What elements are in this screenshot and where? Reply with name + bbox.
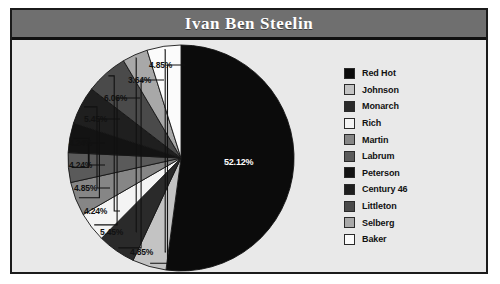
legend-item[interactable]: Martin xyxy=(344,131,474,148)
legend-item[interactable]: Johnson xyxy=(344,82,474,99)
legend-item[interactable]: Peterson xyxy=(344,165,474,182)
legend-item-label: Monarch xyxy=(362,101,399,111)
pie-slice-label: 5.45% xyxy=(100,227,123,237)
legend-item-label: Littleton xyxy=(362,201,397,211)
legend-item[interactable]: Baker xyxy=(344,231,474,248)
legend-swatch-icon xyxy=(344,118,355,129)
legend-item-label: Rich xyxy=(362,118,381,128)
chart-legend: Red HotJohnsonMonarchRichMartinLabrumPet… xyxy=(344,65,474,248)
chart-frame: Ivan Ben Steelin 4.85%3.64%6.06%5.45%4.2… xyxy=(10,8,488,274)
legend-item[interactable]: Labrum xyxy=(344,148,474,165)
legend-swatch-icon xyxy=(344,201,355,212)
pie-slices xyxy=(68,45,294,271)
legend-item-label: Century 46 xyxy=(362,184,408,194)
legend-item[interactable]: Monarch xyxy=(344,98,474,115)
page-title: Ivan Ben Steelin xyxy=(185,14,314,34)
pie-slice-label: 6.06% xyxy=(104,93,127,103)
pie-slice-label: 4.85% xyxy=(74,183,97,193)
legend-swatch-icon xyxy=(344,184,355,195)
legend-swatch-icon xyxy=(344,84,355,95)
legend-item-label: Labrum xyxy=(362,151,394,161)
pie-svg xyxy=(16,43,336,274)
legend-item[interactable]: Selberg xyxy=(344,214,474,231)
legend-swatch-icon xyxy=(344,167,355,178)
pie-slice-label: 4.24% xyxy=(69,160,92,170)
legend-item[interactable]: Century 46 xyxy=(344,181,474,198)
plot-area: 4.85%3.64%6.06%5.45%4.24%4.24%4.85%4.24%… xyxy=(12,43,486,272)
legend-swatch-icon xyxy=(344,101,355,112)
legend-swatch-icon xyxy=(344,234,355,245)
legend-item-label: Martin xyxy=(362,135,388,145)
pie-slice-label: 4.24% xyxy=(69,138,92,148)
legend-swatch-icon xyxy=(344,134,355,145)
pie-chart: 4.85%3.64%6.06%5.45%4.24%4.24%4.85%4.24%… xyxy=(16,43,336,274)
pie-slice-label: 3.64% xyxy=(128,75,151,85)
legend-item-label: Selberg xyxy=(362,218,394,228)
legend-swatch-icon xyxy=(344,151,355,162)
legend-item-label: Baker xyxy=(362,234,387,244)
legend-item[interactable]: Red Hot xyxy=(344,65,474,82)
legend-item-label: Peterson xyxy=(362,168,400,178)
legend-item[interactable]: Rich xyxy=(344,115,474,132)
legend-item[interactable]: Littleton xyxy=(344,198,474,215)
pie-slice-label: 4.85% xyxy=(149,60,172,70)
legend-item-label: Red Hot xyxy=(362,68,396,78)
pie-slice-label: 4.85% xyxy=(130,247,153,257)
legend-item-label: Johnson xyxy=(362,85,399,95)
pie-center-label: 52.12% xyxy=(224,157,253,167)
pie-slice-label: 4.24% xyxy=(84,206,107,216)
legend-swatch-icon xyxy=(344,68,355,79)
pie-slice-label: 5.45% xyxy=(84,114,107,124)
legend-swatch-icon xyxy=(344,217,355,228)
chart-title-bar: Ivan Ben Steelin xyxy=(12,10,486,40)
